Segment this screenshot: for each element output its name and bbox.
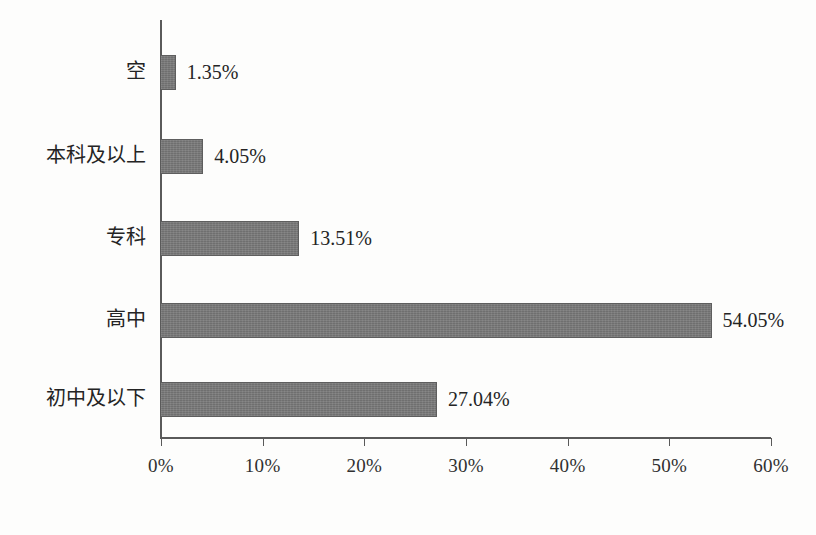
x-axis-tick-label: 0% <box>148 455 174 477</box>
bar <box>161 303 712 338</box>
x-axis-tick-label: 60% <box>753 455 789 477</box>
bar <box>161 382 437 417</box>
bar <box>161 221 299 256</box>
x-axis-tick <box>466 438 467 446</box>
x-axis-tick <box>771 438 772 446</box>
bar-value-label: 27.04% <box>448 389 510 409</box>
bar-value-label: 1.35% <box>187 62 239 82</box>
x-axis-tick-label: 40% <box>550 455 586 477</box>
x-axis-tick-label: 10% <box>245 455 281 477</box>
category-label: 初中及以下 <box>46 388 146 408</box>
category-label: 本科及以上 <box>46 145 146 165</box>
bar <box>161 139 203 174</box>
x-axis-tick <box>568 438 569 446</box>
x-axis-tick-label: 20% <box>346 455 382 477</box>
x-axis-tick <box>364 438 365 446</box>
x-axis-tick-label: 50% <box>651 455 687 477</box>
chart-page: 0%10%20%30%40%50%60% 空1.35%本科及以上4.05%专科1… <box>0 0 816 535</box>
x-axis-tick-label: 30% <box>448 455 484 477</box>
bar <box>161 55 176 90</box>
bar-value-label: 4.05% <box>214 146 266 166</box>
category-label: 高中 <box>106 309 146 329</box>
category-label: 空 <box>126 61 146 81</box>
bar-chart-plot: 0%10%20%30%40%50%60% 空1.35%本科及以上4.05%专科1… <box>0 0 816 535</box>
category-label: 专科 <box>106 227 146 247</box>
x-axis-tick <box>669 438 670 446</box>
x-axis-tick <box>263 438 264 446</box>
x-axis-tick <box>161 438 162 446</box>
bar-value-label: 54.05% <box>723 310 785 330</box>
bar-value-label: 13.51% <box>310 228 372 248</box>
